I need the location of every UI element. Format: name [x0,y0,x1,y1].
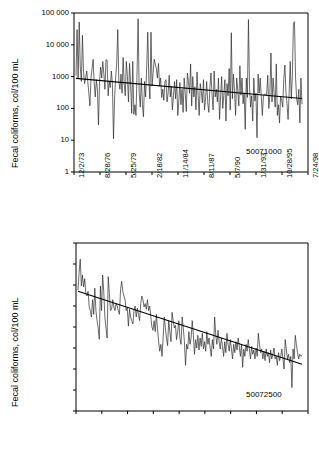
x-tick-label: 5/7/90 [233,157,242,178]
data-series-line-bottom [78,259,302,387]
plot-svg-top [0,0,319,232]
y-tick-label: 100 [0,104,69,112]
chart-panel-top: Fecal coliforms, col/100 mL 50071000 100… [0,0,319,232]
chart-panel-bottom: Fecal coliforms, col/100 mL 50072500 100… [0,232,319,467]
plot-svg-bottom [0,232,319,467]
x-tick-label: 11/14/84 [181,149,190,178]
y-tick-label: 1 [0,168,69,176]
trend-line-bottom [78,291,302,364]
panel-bottom-inner: Fecal coliforms, col/100 mL 50072500 100… [0,232,319,467]
x-tick-label: 5/25/79 [129,153,138,178]
y-tick-label: 10 [0,136,69,144]
y-tick-label: 100 000 [0,9,69,17]
x-tick-label: 7/24/98 [311,153,319,178]
y-tick-label: 10 000 [0,41,69,49]
x-tick-label: 8/11/87 [207,153,216,178]
x-tick-label: 2/18/82 [155,153,164,178]
x-tick-label: 10/28/95 [285,148,294,178]
panel-top-inner: Fecal coliforms, col/100 mL 50071000 100… [0,0,319,232]
x-tick-label: 12/2/73 [77,153,86,178]
x-tick-label: 1/31/93 [259,153,268,178]
data-series-line-top [76,19,302,139]
y-tick-label: 1000 [0,73,69,81]
x-tick-label: 8/28/76 [103,153,112,178]
